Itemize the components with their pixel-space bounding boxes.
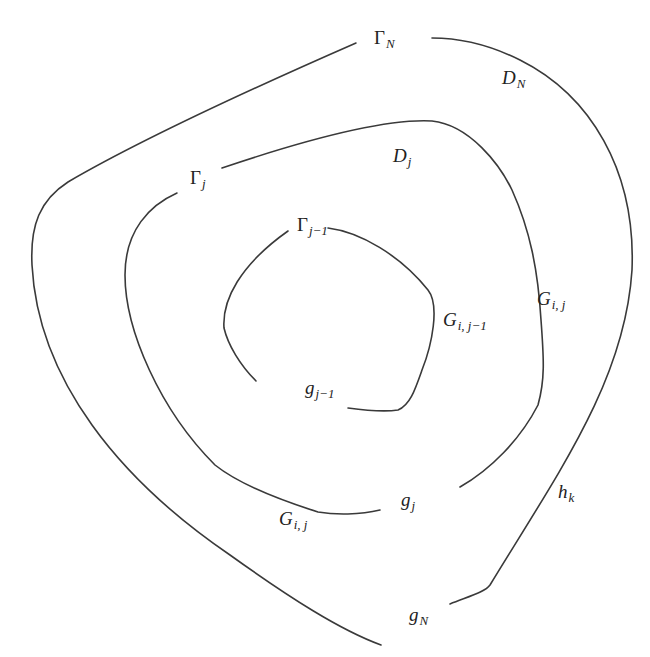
inner-contour-gamma-j-1: [328, 228, 434, 411]
label-h-k: hk: [558, 482, 574, 501]
label-g-i-j-right: Gi, j: [537, 289, 565, 308]
label-small-g-j-minus-1: gj−1: [305, 378, 334, 397]
label-g-i-j-minus-1: Gi, j−1: [443, 310, 487, 329]
label-small-g-j: gj: [401, 490, 415, 509]
label-gamma-j-minus-1: Γj−1: [297, 215, 328, 234]
label-d-j: Dj: [393, 146, 411, 165]
outer-contour-gamma-n: [32, 43, 381, 645]
label-gamma-n: ΓN: [374, 28, 395, 47]
label-small-g-n: gN: [409, 605, 428, 624]
nested-domains-diagram: ΓN DN Γj Dj Γj−1 Gi, j−1 Gi, j gj−1 gj G…: [0, 0, 650, 657]
label-gamma-j: Γj: [190, 168, 206, 187]
inner-contour-gamma-j-1-left: [224, 231, 288, 381]
label-g-i-j-bottom: Gi, j: [279, 509, 307, 528]
middle-contour-gamma-j: [222, 121, 543, 487]
contours: [0, 0, 650, 657]
label-d-n: DN: [502, 68, 525, 87]
middle-contour-gamma-j-left: [125, 193, 380, 514]
